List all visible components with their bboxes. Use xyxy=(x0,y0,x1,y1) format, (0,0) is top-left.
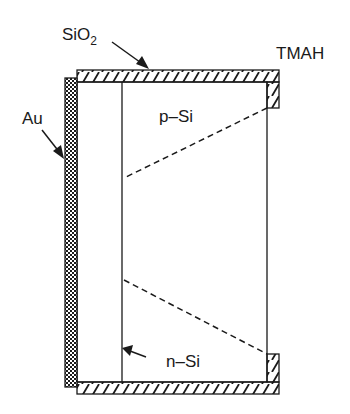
sio2-label-text: SiO xyxy=(62,25,90,44)
sio2-right-top-tab xyxy=(267,82,279,108)
au-label: Au xyxy=(22,109,43,128)
sio2-top-layer xyxy=(77,70,279,82)
sio2-label: SiO2 xyxy=(62,25,97,48)
au-back-contact xyxy=(65,78,77,387)
p-si-substrate xyxy=(77,82,267,382)
tmah-label: TMAH xyxy=(276,44,324,63)
p-si-label: p–Si xyxy=(159,107,193,126)
au-pointer-arrow xyxy=(42,130,64,159)
sio2-pointer-arrow xyxy=(112,42,149,69)
sio2-label-subscript: 2 xyxy=(90,34,97,48)
n-si-label: n–Si xyxy=(166,352,200,371)
silicon-etch-cross-section-diagram: SiO2 TMAH Au p–Si n–Si xyxy=(0,0,350,414)
sio2-bottom-layer xyxy=(77,382,279,394)
sio2-right-bottom-tab xyxy=(267,354,279,382)
